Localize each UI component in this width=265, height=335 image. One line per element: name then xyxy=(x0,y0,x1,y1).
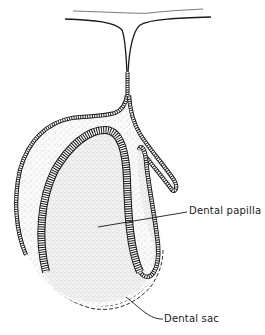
dental-sac-leader xyxy=(126,297,163,319)
label-dental-sac: Dental sac xyxy=(164,313,219,324)
oral-epithelium xyxy=(65,9,211,72)
label-dental-papilla: Dental papilla xyxy=(189,205,261,216)
tooth-germ-diagram xyxy=(0,0,265,335)
